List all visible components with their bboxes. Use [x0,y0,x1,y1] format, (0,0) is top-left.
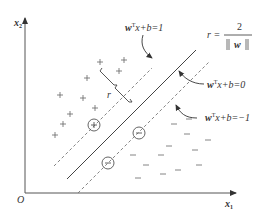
lower-margin-label: wTx+b=−1 [205,112,250,123]
formula-numerator: 2 [237,21,242,32]
margin-bracket: r [100,68,132,102]
hyperplane-line [67,50,196,179]
lower-margin-arrow [176,105,197,118]
axes [25,18,236,193]
upper-margin-arrow [142,35,152,58]
svm-diagram: x2 x1 O r [0,0,265,221]
upper-margin-label: wTx+b=1 [125,22,163,33]
margin-r-label: r [107,89,111,100]
formula-lhs: r = [207,29,220,40]
annotation-arrows [142,35,204,118]
support-vectors [88,119,145,169]
origin-label: O [17,194,24,205]
y-axis-label: x2 [13,17,22,29]
positive-points [52,57,127,138]
hyperplane-label: wTx+b=0 [207,79,245,90]
hyperplane-arrow [179,71,204,84]
formula-denominator: w [234,39,241,50]
margin-formula: r = 2 w [207,21,252,50]
decision-boundaries [54,50,210,193]
upper-margin-line [54,68,152,166]
x-axis-label: x1 [224,198,233,210]
svm-plot: x2 x1 O r [0,0,265,221]
